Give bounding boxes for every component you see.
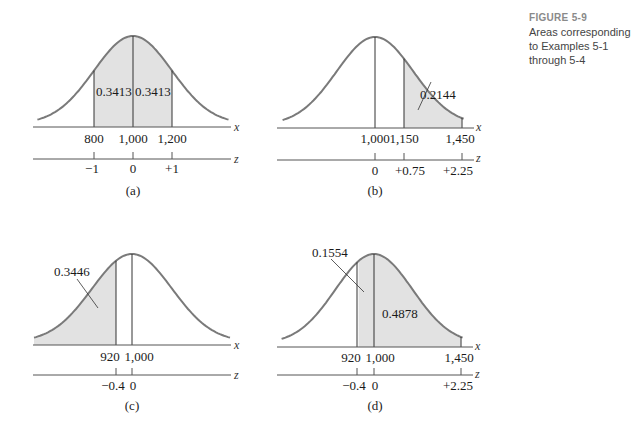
panel-d: x 0.1554 0.4878 920 1,000 1,450 z −0.4 0… xyxy=(277,245,481,413)
x-tick-label: 1,200 xyxy=(157,131,186,146)
area-label: 0.3413 xyxy=(135,84,171,99)
x-axis-label: x xyxy=(233,338,240,352)
x-tick-label: 1,000 xyxy=(360,131,389,146)
x-tick-label: 1,450 xyxy=(445,131,474,146)
area-label: 0.4878 xyxy=(382,306,418,321)
panel-caption: (b) xyxy=(367,183,382,198)
z-axis-label: z xyxy=(233,368,239,382)
z-tick-label: 0 xyxy=(372,163,379,178)
panel-caption: (c) xyxy=(125,398,139,413)
x-tick-label: 1,000 xyxy=(124,349,153,364)
z-tick-label: +1 xyxy=(165,161,179,176)
x-axis-label: x xyxy=(233,120,240,134)
z-tick-label: +2.25 xyxy=(443,378,473,393)
x-tick-label: 1,150 xyxy=(389,131,418,146)
z-axis-label: z xyxy=(233,152,239,166)
panel-caption: (a) xyxy=(126,183,140,198)
z-tick-label: −1 xyxy=(85,161,99,176)
figure-canvas: x 0.3413 0.3413 800 1,000 1,200 z −1 0 +… xyxy=(0,0,639,435)
panel-c: x 0.3446 920 1,000 z −0.4 0 (c) xyxy=(33,254,240,413)
x-tick-label: 1,450 xyxy=(444,350,473,365)
panel-b: x 0.2144 1,000 1,150 1,450 z 0 +0.75 +2.… xyxy=(277,37,482,198)
z-tick-label: +0.75 xyxy=(395,163,425,178)
area-label: 0.1554 xyxy=(312,245,348,260)
z-tick-label: −0.4 xyxy=(342,378,366,393)
x-tick-label: 920 xyxy=(341,350,361,365)
x-tick-label: 800 xyxy=(84,131,104,146)
x-axis-label: x xyxy=(474,339,481,353)
x-tick-label: 1,000 xyxy=(118,131,147,146)
x-axis-label: x xyxy=(475,120,482,134)
z-axis-label: z xyxy=(474,367,480,381)
area-label: 0.3413 xyxy=(96,84,132,99)
x-tick-label: 920 xyxy=(100,349,120,364)
z-tick-label: +2.25 xyxy=(443,163,473,178)
z-tick-label: 0 xyxy=(130,161,137,176)
x-tick-label: 1,000 xyxy=(365,350,394,365)
z-axis-label: z xyxy=(475,151,481,165)
area-label: 0.3446 xyxy=(54,264,90,279)
z-tick-label: −0.4 xyxy=(101,378,125,393)
z-tick-label: 0 xyxy=(130,378,137,393)
panel-caption: (d) xyxy=(367,398,382,413)
z-tick-label: 0 xyxy=(372,378,379,393)
panel-a: x 0.3413 0.3413 800 1,000 1,200 z −1 0 +… xyxy=(33,36,240,198)
